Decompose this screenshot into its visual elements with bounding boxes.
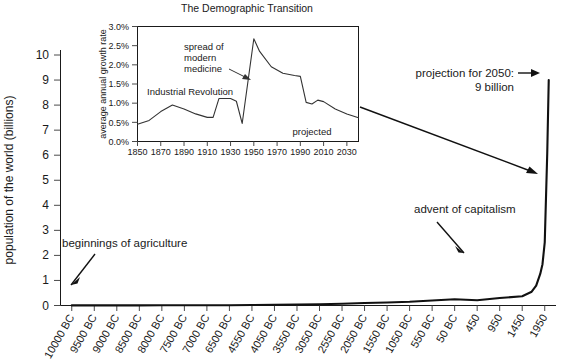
main-y-tick-label: 4 [42,198,49,212]
inset-x-tick-label: 2010 [314,147,334,157]
annotation-label: advent of capitalism [414,203,516,215]
main-y-tick-label: 1 [42,273,49,287]
annotation-label-line2: 9 billion [475,81,514,93]
chart-canvas: population of the world (billions) 01234… [0,0,564,360]
main-y-axis-title: population of the world (billions) [2,96,16,265]
inset-x-tick-label: 1950 [244,147,264,157]
main-y-tick-label: 9 [42,73,49,87]
inset-x-tick-label: 1890 [174,147,194,157]
main-y-tick-label: 7 [42,123,49,137]
inset-chart-title: The Demographic Transition [181,2,313,14]
main-y-tick-label: 6 [42,148,49,162]
main-y-tick-label: 3 [42,223,49,237]
inset-y-tick-label: 3.0% [108,22,129,32]
annotation-label-line1: projection for 2050: [416,67,514,79]
main-y-tick-label: 10 [36,48,50,62]
main-y-tick-label: 0 [42,299,49,313]
annotation-label-line2: modern [184,52,216,63]
annotation-industrial-revolution: Industrial Revolution [147,86,233,97]
inset-y-tick-label: 0.0% [108,137,129,147]
main-y-tick-label: 2 [42,248,49,262]
annotation-label-line1: spread of [184,41,224,52]
inset-x-tick-label: 1910 [197,147,217,157]
inset-x-tick-label: 1990 [290,147,310,157]
inset-x-tick-label: 1970 [267,147,287,157]
inset-x-tick-label: 1850 [127,147,147,157]
annotation-label-line3: medicine [184,63,222,74]
inset-y-tick-label: 2.0% [108,60,129,70]
inset-y-tick-label: 2.5% [108,41,129,51]
annotation-projected: projected [292,126,331,137]
inset-y-tick-label: 0.5% [108,118,129,128]
inset-x-tick-label: 1930 [221,147,241,157]
main-y-tick-label: 5 [42,173,49,187]
main-y-tick-label: 8 [42,98,49,112]
inset-y-axis-title: average annual growth rate [98,29,108,139]
inset-y-tick-label: 1.0% [108,98,129,108]
population-chart-figure: population of the world (billions) 01234… [0,0,564,360]
inset-y-tick-label: 1.5% [108,79,129,89]
annotation-label: beginnings of agriculture [62,237,187,249]
inset-x-tick-label: 1870 [151,147,171,157]
inset-x-tick-label: 2030 [337,147,357,157]
